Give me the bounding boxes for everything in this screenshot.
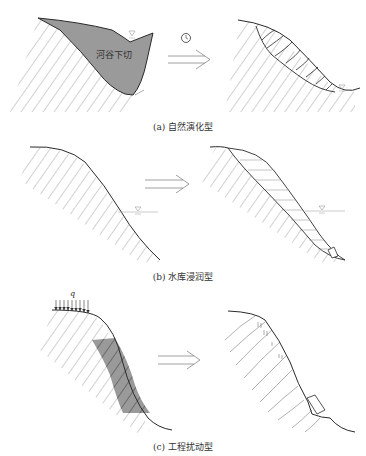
water-level-icon: [135, 207, 141, 214]
collapsed-block: [307, 395, 325, 414]
valley-incision-label: 河谷下切: [96, 48, 132, 61]
panel-b-before: [20, 147, 160, 262]
water-level-icon: [319, 206, 325, 213]
water-level-icon: [129, 31, 135, 38]
caption-b: (b) 水库浸润型: [0, 270, 366, 283]
load-label: q: [70, 289, 75, 298]
panel-a-after: [225, 20, 360, 112]
hatch-arcs: [225, 316, 320, 432]
double-arrow-icon: [168, 50, 210, 69]
slope-surface: [228, 311, 355, 432]
double-arrow-icon: [158, 351, 200, 369]
clock-icon: [182, 34, 191, 43]
panel-c-before: [40, 300, 172, 435]
double-arrow-icon: [145, 175, 189, 193]
panel-c-after: [225, 311, 355, 432]
panel-b-after: [200, 147, 345, 262]
landslide-types-diagram: [0, 0, 366, 456]
panel-a-before: [10, 18, 153, 112]
caption-a: (a) 自然演化型: [0, 120, 366, 133]
caption-c: (c) 工程扰动型: [0, 440, 366, 453]
